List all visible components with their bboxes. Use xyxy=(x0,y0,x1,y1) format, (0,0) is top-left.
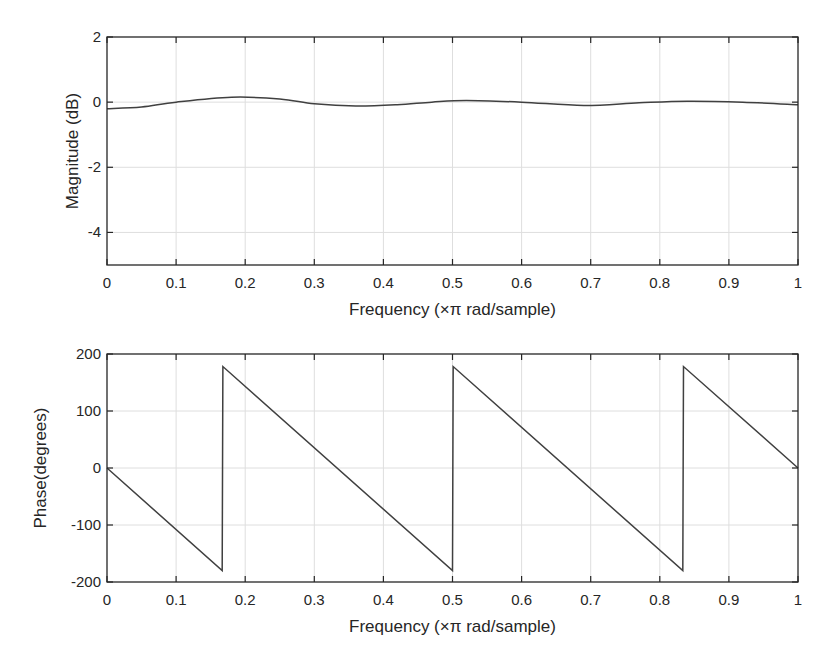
x-tick-label: 0.9 xyxy=(718,274,739,291)
x-tick-label: 0.3 xyxy=(304,591,325,608)
x-tick-label: 0 xyxy=(103,274,111,291)
y-tick-label: 2 xyxy=(93,28,101,45)
magnitude-plot: 00.10.20.30.40.50.60.70.80.9120-2-4Frequ… xyxy=(63,28,802,319)
magnitude-x-axis-label: Frequency (×π rad/sample) xyxy=(349,300,556,319)
x-tick-label: 0.2 xyxy=(235,591,256,608)
y-tick-label: 0 xyxy=(93,93,101,110)
x-tick-label: 0.8 xyxy=(649,274,670,291)
y-tick-label: -2 xyxy=(88,158,101,175)
phase-line xyxy=(107,367,798,571)
x-tick-label: 0 xyxy=(103,591,111,608)
x-tick-label: 0.8 xyxy=(649,591,670,608)
x-tick-label: 0.1 xyxy=(166,274,187,291)
x-tick-label: 0.7 xyxy=(580,274,601,291)
x-tick-label: 1 xyxy=(794,591,802,608)
magnitude-grid xyxy=(107,37,798,265)
y-tick-label: 0 xyxy=(93,459,101,476)
x-tick-label: 0.2 xyxy=(235,274,256,291)
phase-y-axis-label: Phase(degrees) xyxy=(31,408,50,529)
y-tick-label: -200 xyxy=(71,573,101,590)
x-tick-label: 0.1 xyxy=(166,591,187,608)
x-tick-label: 0.6 xyxy=(511,274,532,291)
x-tick-label: 0.9 xyxy=(718,591,739,608)
magnitude-y-axis-label: Magnitude (dB) xyxy=(63,93,82,209)
x-tick-label: 0.4 xyxy=(373,274,394,291)
x-tick-label: 0.4 xyxy=(373,591,394,608)
y-tick-label: -4 xyxy=(88,223,101,240)
phase-x-axis-label: Frequency (×π rad/sample) xyxy=(349,617,556,636)
x-tick-label: 0.7 xyxy=(580,591,601,608)
y-tick-label: -100 xyxy=(71,516,101,533)
x-tick-label: 0.6 xyxy=(511,591,532,608)
y-tick-label: 100 xyxy=(76,402,101,419)
phase-plot: 00.10.20.30.40.50.60.70.80.912001000-100… xyxy=(31,345,802,636)
figure: 00.10.20.30.40.50.60.70.80.9120-2-4Frequ… xyxy=(0,0,829,665)
y-tick-label: 200 xyxy=(76,345,101,362)
x-tick-label: 1 xyxy=(794,274,802,291)
x-tick-label: 0.5 xyxy=(442,274,463,291)
x-tick-label: 0.5 xyxy=(442,591,463,608)
x-tick-label: 0.3 xyxy=(304,274,325,291)
